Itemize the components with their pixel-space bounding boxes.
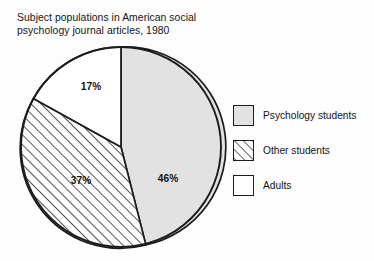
slice-value-label-adults: 17%	[81, 81, 101, 92]
chart-title: Subject populations in American social p…	[17, 11, 247, 37]
slice-value-label-psychology-students: 46%	[158, 173, 178, 184]
slice-value-label-other-students: 37%	[71, 175, 91, 186]
hatched-square-swatch	[233, 140, 254, 161]
legend-item-adults: Adults	[233, 168, 373, 203]
legend-item-psychology-students: Psychology students	[233, 98, 373, 133]
legend-label-other-students: Other students	[263, 145, 330, 157]
chart-legend: Psychology students Other students Adult…	[233, 98, 373, 203]
legend-label-psychology-students: Psychology students	[263, 110, 356, 122]
legend-label-adults: Adults	[263, 180, 291, 192]
chart-figure: Subject populations in American social p…	[0, 0, 374, 261]
legend-item-other-students: Other students	[233, 133, 373, 168]
white-square-swatch	[233, 175, 254, 196]
pie-chart: 46% 37% 17%	[18, 42, 228, 254]
gray-square-swatch	[233, 105, 254, 126]
hatch-pattern-icon	[234, 141, 253, 160]
